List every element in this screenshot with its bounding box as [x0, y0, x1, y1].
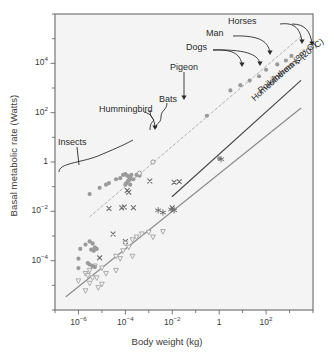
annotation-insects: Insects [58, 137, 87, 147]
x-tick-label: 102 [252, 317, 280, 327]
x-tick-label: 1 [205, 317, 233, 327]
annotation-dogs: Dogs [186, 42, 207, 52]
x-tick-label: 10−6 [64, 317, 92, 327]
x-tick-label: 10−4 [111, 317, 139, 327]
y-axis-title-container: Basal metabolic rate (Watts) [2, 0, 26, 310]
y-tick-label: 104 [35, 57, 48, 67]
basal-metabolic-rate-chart: Basal metabolic rate (Watts) Body weight… [0, 0, 334, 364]
y-axis-title: Basal metabolic rate (Watts) [9, 94, 20, 216]
annotation-bats: Bats [159, 94, 177, 104]
annotation-horses: Horses [228, 16, 257, 26]
plot-canvas [0, 0, 334, 364]
y-tick-label: 10−4 [31, 255, 48, 265]
annotation-hummingbird: Hummingbird [99, 104, 153, 114]
y-tick-label: 10−2 [31, 205, 48, 215]
y-tick-label: 102 [35, 107, 48, 117]
annotation-man: Man [206, 28, 224, 38]
annotation-pigeon: Pigeon [170, 62, 198, 72]
x-axis-title: Body weight (kg) [0, 336, 334, 347]
x-tick-label: 10−2 [158, 317, 186, 327]
y-tick-label: 1 [43, 156, 48, 166]
